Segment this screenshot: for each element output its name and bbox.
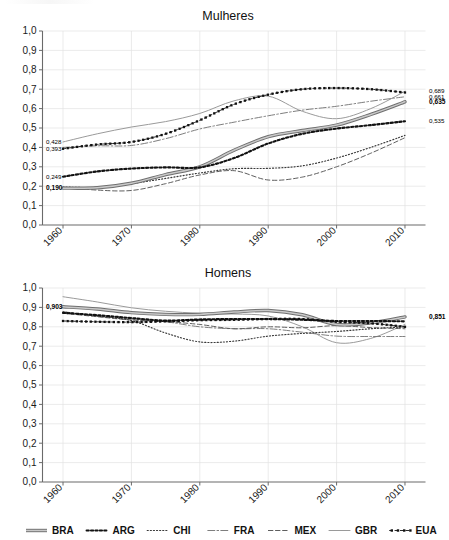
- legend-item-MEX[interactable]: MEX: [268, 525, 316, 536]
- series-marker-EUA: [100, 143, 102, 145]
- series-marker-EUA: [183, 126, 185, 128]
- legend-label-MEX: MEX: [294, 525, 316, 536]
- series-marker-EUA: [319, 87, 321, 89]
- series-marker-EUA: [137, 140, 139, 142]
- series-marker-EUA: [335, 321, 337, 323]
- y-tick-label: 0,9: [23, 45, 37, 56]
- series-marker-EUA: [213, 112, 215, 114]
- y-tick-label: 0,1: [23, 457, 37, 468]
- legend-item-ARG[interactable]: ARG: [87, 525, 135, 536]
- value-label: 0,249: [46, 173, 62, 180]
- series-marker-EUA: [300, 88, 302, 90]
- series-group: [62, 297, 406, 344]
- series-marker-EUA: [159, 320, 161, 322]
- series-marker-EUA: [290, 89, 292, 91]
- series-marker-EUA: [399, 91, 401, 93]
- x-tick-label: 2010: [383, 481, 407, 505]
- series-marker-EUA: [362, 322, 364, 324]
- chart-title: Mulheres: [202, 9, 253, 23]
- legend-item-FRA[interactable]: FRA: [208, 525, 255, 536]
- series-marker-EUA: [81, 145, 83, 147]
- series-marker-EUA: [169, 131, 171, 133]
- series-marker-EUA: [258, 96, 260, 98]
- series-marker-EUA: [178, 320, 180, 322]
- x-tick-label: 1990: [246, 481, 270, 505]
- series-marker-EUA: [85, 320, 87, 322]
- series-marker-EUA: [156, 135, 158, 137]
- y-tick-label: 0,7: [23, 84, 37, 95]
- series-marker-EUA: [123, 142, 125, 144]
- x-tick-label: 2000: [314, 481, 338, 505]
- figure-container: Mulheres0,00,10,20,30,40,50,60,70,80,91,…: [0, 0, 449, 540]
- chart-title: Homens: [205, 266, 252, 280]
- legend-marker-EUA: [391, 529, 393, 531]
- y-tick-label: 0,3: [23, 161, 37, 172]
- series-marker-EUA: [122, 321, 124, 323]
- series-marker-EUA: [276, 92, 278, 94]
- x-tick-label: 2010: [383, 224, 407, 248]
- series-marker-EUA: [248, 98, 250, 100]
- y-tick-label: 0,8: [23, 321, 37, 332]
- series-marker-EUA: [145, 321, 147, 323]
- legend-item-CHI[interactable]: CHI: [147, 525, 190, 536]
- series-marker-EUA: [265, 318, 267, 320]
- series-marker-EUA: [239, 101, 241, 103]
- series-marker-EUA: [168, 320, 170, 322]
- series-marker-EUA: [399, 325, 401, 327]
- series-marker-EUA: [230, 104, 232, 106]
- series-marker-EUA: [150, 321, 152, 323]
- series-marker-EUA: [314, 87, 316, 89]
- series-marker-EUA: [349, 321, 351, 323]
- series-marker-EUA: [325, 320, 327, 322]
- series-marker-EUA: [271, 93, 273, 95]
- legend-label-EUA: EUA: [416, 525, 437, 536]
- value-label: 0,851: [429, 313, 446, 321]
- legend-item-GBR[interactable]: GBR: [329, 525, 378, 536]
- series-marker-EUA: [210, 319, 212, 321]
- series-marker-EUA: [342, 87, 344, 89]
- legend-marker-EUA: [403, 529, 405, 531]
- y-tick-label: 0,2: [23, 438, 37, 449]
- series-marker-EUA: [90, 320, 92, 322]
- series-marker-EUA: [94, 321, 96, 323]
- series-marker-EUA: [376, 323, 378, 325]
- series-marker-EUA: [281, 91, 283, 93]
- series-marker-EUA: [90, 144, 92, 146]
- series-marker-EUA: [173, 320, 175, 322]
- series-marker-EUA: [95, 143, 97, 145]
- series-marker-EUA: [279, 318, 281, 320]
- series-marker-EUA: [244, 99, 246, 101]
- value-label: 0,635: [429, 98, 446, 106]
- series-marker-EUA: [390, 90, 392, 92]
- legend-item-EUA[interactable]: EUA: [390, 525, 437, 536]
- legend-item-BRA[interactable]: BRA: [26, 525, 74, 536]
- series-line-MEX: [63, 138, 405, 191]
- series-marker-EUA: [113, 321, 115, 323]
- series-marker-EUA: [196, 120, 198, 122]
- series-marker-EUA: [201, 319, 203, 321]
- series-marker-EUA: [127, 321, 129, 323]
- legend-label-BRA: BRA: [52, 525, 74, 536]
- series-marker-EUA: [164, 320, 166, 322]
- series-marker-EUA: [238, 319, 240, 321]
- series-marker-EUA: [174, 129, 176, 131]
- series-marker-EUA: [85, 145, 87, 147]
- series-marker-EUA: [338, 87, 340, 89]
- legend-label-FRA: FRA: [234, 525, 255, 536]
- y-tick-label: 0,0: [23, 219, 37, 230]
- series-marker-EUA: [76, 320, 78, 322]
- series-marker-EUA: [321, 319, 323, 321]
- series-marker-EUA: [333, 87, 335, 89]
- series-marker-EUA: [304, 88, 306, 90]
- y-tick-label: 0,4: [23, 142, 37, 153]
- series-marker-EUA: [381, 323, 383, 325]
- series-marker-EUA: [252, 318, 254, 320]
- series-marker-EUA: [71, 146, 73, 148]
- series-marker-EUA: [262, 95, 264, 97]
- series-marker-EUA: [160, 134, 162, 136]
- series-marker-EUA: [347, 87, 349, 89]
- series-marker-EUA: [357, 87, 359, 89]
- legend-label-CHI: CHI: [173, 525, 190, 536]
- x-tick-label: 1980: [178, 224, 202, 248]
- value-label: 0,903: [46, 303, 63, 311]
